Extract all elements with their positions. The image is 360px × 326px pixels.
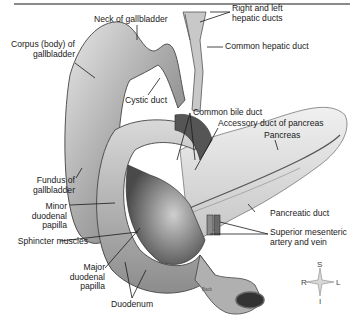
label-sphincter-muscles: Sphincter muscles — [0, 237, 88, 247]
label-common-hepatic-duct: Common hepatic duct — [225, 42, 309, 52]
label-line: artery and vein — [270, 238, 347, 248]
compass-rose-icon — [306, 268, 334, 296]
compass-superior: S — [317, 260, 322, 269]
hepatic-ducts — [183, 12, 206, 112]
label-duodenum: Duodenum — [111, 300, 153, 310]
label-cystic-duct: Cystic duct — [125, 96, 167, 106]
label-major-duodenal-papilla: Major duodenal papilla — [0, 263, 105, 292]
label-accessory-duct: Accessory duct of pancreas — [218, 119, 324, 129]
label-fundus-of-gallbladder: Fundus of gallbladder — [0, 176, 75, 195]
label-back: Back — [202, 287, 212, 292]
label-corpus-of-gallbladder: Corpus (body) of gallbladder — [0, 40, 75, 59]
label-common-bile-duct: Common bile duct — [193, 108, 262, 118]
compass-right: R — [301, 278, 307, 287]
compass-inferior: I — [319, 297, 321, 306]
label-pancreas: Pancreas — [264, 131, 300, 141]
label-line: gallbladder — [0, 50, 75, 60]
label-line: papilla — [0, 282, 105, 292]
label-line: papilla — [0, 221, 67, 231]
label-superior-mesenteric-artery-vein: Superior mesenteric artery and vein — [270, 228, 347, 247]
label-right-left-hepatic-ducts: Right and left hepatic ducts — [232, 4, 283, 23]
label-neck-of-gallbladder: Neck of gallbladder — [94, 15, 168, 25]
compass-left: L — [336, 278, 340, 287]
label-line: hepatic ducts — [232, 14, 283, 24]
label-pancreatic-duct: Pancreatic duct — [270, 209, 329, 219]
label-line: gallbladder — [0, 186, 75, 196]
label-minor-duodenal-papilla: Minor duodenal papilla — [0, 202, 67, 231]
